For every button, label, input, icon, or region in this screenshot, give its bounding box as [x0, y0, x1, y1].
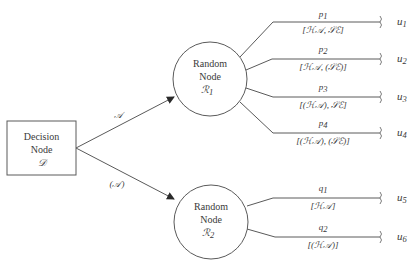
random-node-1-line2: Node [199, 71, 221, 82]
edge-label-not-a: (𝒜) [110, 179, 125, 189]
branch-4-state: [(ℋ𝒜), (𝒮ℰ)] [296, 136, 350, 146]
branch-6: q2 [(ℋ𝒜)] u6 [247, 222, 408, 250]
branch-1-prob: p1 [318, 9, 328, 21]
edge-label-a: 𝒜 [114, 110, 125, 120]
random-node-1-line1: Random [193, 58, 227, 69]
branch-2-utility: u2 [397, 52, 408, 66]
branch-5-state: [ℋ𝒜] [310, 201, 336, 211]
edge-decision-to-r1 [76, 97, 174, 148]
branch-2-state: [ℋ𝒜, (𝒮ℰ)] [299, 62, 347, 72]
decision-node-label-line1: Decision [24, 131, 60, 142]
branch-3: p3 [(ℋ𝒜), 𝒮ℰ] u3 [246, 82, 407, 110]
decision-node-label-line2: Node [31, 144, 53, 155]
branch-3-utility: u3 [397, 90, 407, 104]
branch-6-state: [(ℋ𝒜)] [308, 240, 339, 250]
branch-6-prob: q2 [319, 222, 329, 234]
branch-6-utility: u6 [397, 230, 408, 244]
edge-decision-to-r2 [76, 148, 174, 199]
branch-5: q1 [ℋ𝒜] u5 [247, 183, 407, 211]
branch-2-prob: p2 [318, 44, 329, 56]
random-node-1: Random Node ℛ1 [173, 42, 247, 116]
branch-5-utility: u5 [397, 191, 407, 205]
random-node-2: Random Node ℛ2 [174, 185, 248, 259]
branch-1-state: [ℋ𝒜, 𝒮ℰ] [302, 25, 344, 35]
random-node-2-line1: Random [194, 201, 228, 212]
decision-node: Decision Node 𝒟 [7, 121, 76, 175]
decision-tree-diagram: Decision Node 𝒟 𝒜 (𝒜) Random Node ℛ1 Ran… [0, 0, 419, 271]
branch-2: p2 [ℋ𝒜, (𝒮ℰ)] u2 [246, 44, 408, 72]
branch-1-utility: u1 [397, 15, 407, 29]
branch-5-prob: q1 [319, 183, 328, 195]
branch-4-utility: u4 [397, 126, 408, 140]
random-node-2-line2: Node [200, 214, 222, 225]
branch-4-prob: p4 [318, 118, 329, 130]
branch-3-state: [(ℋ𝒜), 𝒮ℰ] [299, 100, 347, 110]
branch-3-prob: p3 [318, 82, 328, 94]
